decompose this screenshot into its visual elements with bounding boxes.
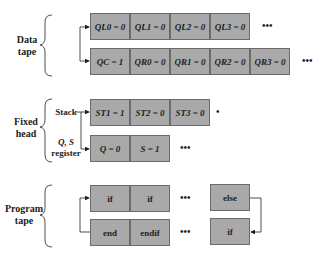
program-tape-label: Programtape: [4, 203, 44, 227]
tape-cell-qr0: QR0 = 0: [130, 48, 170, 75]
program-cell-end: end: [90, 219, 130, 246]
ellipsis: •••: [180, 226, 191, 237]
tape-cell-ql0: QL0 = 0: [90, 13, 130, 40]
ellipsis: •••: [180, 192, 191, 203]
register-cell-s: S = 1: [130, 135, 170, 162]
qs-register-label: Q, Sregister: [50, 137, 82, 159]
program-cell-else: else: [210, 184, 250, 211]
ellipsis: •: [216, 106, 220, 117]
tape-cell-qr1: QR1 = 0: [170, 48, 210, 75]
register-cell-q: Q = 0: [90, 135, 130, 162]
program-cell-endif: endif: [130, 219, 170, 246]
tape-cell-ql3: QL3 = 0: [210, 13, 250, 40]
tape-cell-ql1: QL1 = 0: [130, 13, 170, 40]
fixed-head-label: Fixedhead: [10, 116, 42, 140]
stack-cell-st2: ST2 = 0: [130, 99, 170, 126]
tape-cell-qr3: QR3 = 0: [250, 48, 290, 75]
tape-cell-ql2: QL2 = 0: [170, 13, 210, 40]
tape-cell-qr2: QR2 = 0: [210, 48, 250, 75]
program-cell-if-1: if: [90, 185, 130, 212]
stack-cell-st3: ST3 = 0: [170, 99, 210, 126]
program-cell-if-2: if: [130, 185, 170, 212]
data-tape-label: Datatape: [12, 34, 42, 58]
ellipsis: •••: [262, 20, 273, 31]
tape-diagram: Datatape Fixedhead Stack Q, Sregister Pr…: [0, 0, 325, 262]
stack-cell-st1: ST1 = 1: [90, 99, 130, 126]
ellipsis: •••: [180, 142, 191, 153]
ellipsis: •••: [302, 55, 313, 66]
tape-cell-qc: QC = 1: [90, 48, 130, 75]
program-cell-if-end: if: [210, 218, 250, 245]
stack-label: Stack: [54, 106, 78, 118]
